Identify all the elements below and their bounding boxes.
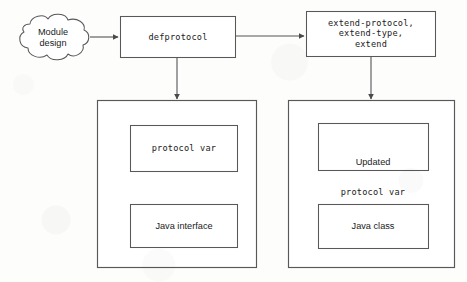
defprotocol-box [121,17,236,58]
diagram-canvas: Module design defprotocol extend-protoco… [0,0,467,282]
extend-forms-box [307,12,436,57]
java-class-box [319,205,429,249]
cloud-shape [20,14,89,60]
java-interface-box [131,205,238,248]
diagram-vector-layer [0,0,467,282]
protocol-var-box [131,126,238,172]
updated-protocol-var-box [319,124,429,171]
